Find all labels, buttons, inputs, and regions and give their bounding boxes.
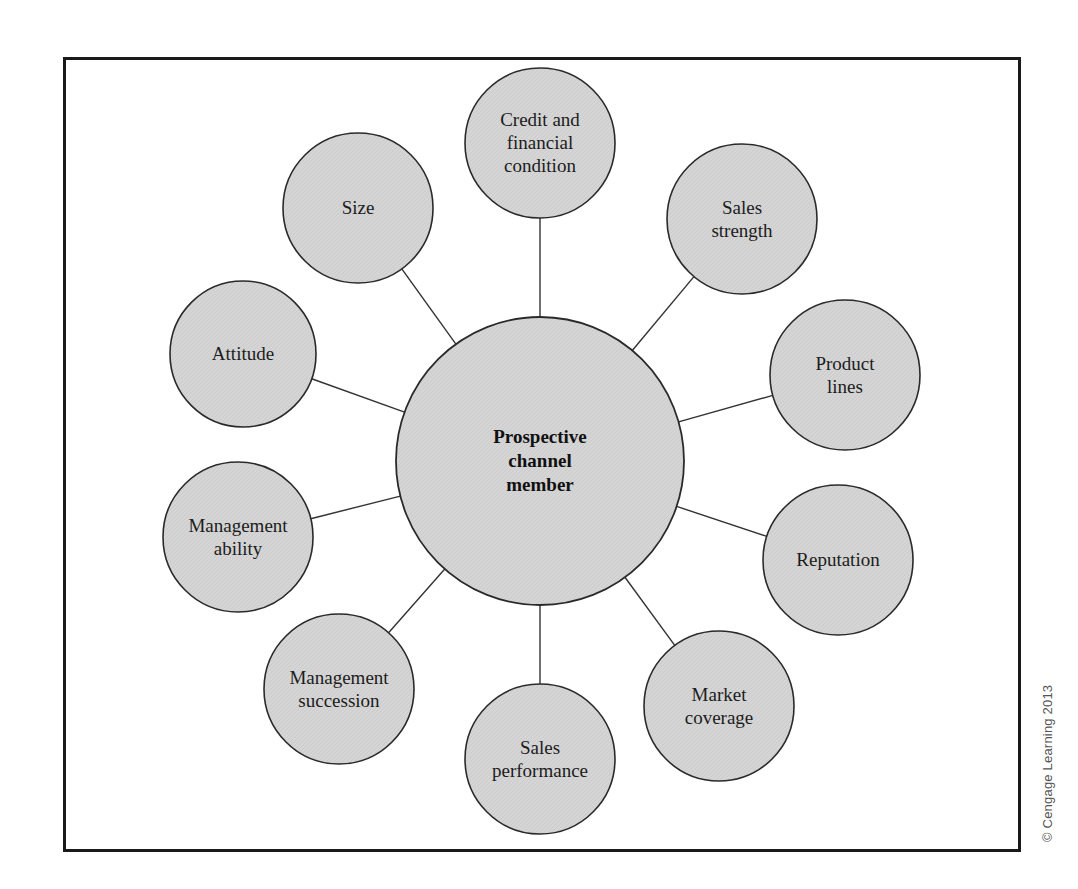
node-label-line: Sales xyxy=(722,197,762,218)
node-label-line: financial xyxy=(507,132,573,153)
node-label-line: strength xyxy=(711,220,773,241)
node-sales-performance: Salesperformance xyxy=(465,684,615,834)
connector-market-coverage xyxy=(625,577,675,645)
node-label-line: Reputation xyxy=(796,549,880,570)
mind-map-diagram: Credit andfinancialconditionSalesstrengt… xyxy=(0,0,1078,889)
node-attitude: Attitude xyxy=(170,281,316,427)
node-credit: Credit andfinancialcondition xyxy=(465,68,615,218)
node-label-line: Credit and xyxy=(500,109,580,130)
connector-reputation xyxy=(677,506,767,536)
node-management-succession: Managementsuccession xyxy=(264,614,414,764)
node-sales-strength: Salesstrength xyxy=(667,144,817,294)
node-label-line: Sales xyxy=(520,737,560,758)
copyright-notice: © Cengage Learning 2013 xyxy=(1040,685,1055,842)
node-label-line: condition xyxy=(504,155,576,176)
node-label-line: ability xyxy=(214,538,263,559)
connector-product-lines xyxy=(679,395,773,422)
node-size: Size xyxy=(283,133,433,283)
node-product-lines: Productlines xyxy=(770,300,920,450)
connector-sales-strength xyxy=(632,277,694,351)
node-label-line: member xyxy=(506,474,574,495)
node-management-ability: Managementability xyxy=(163,462,313,612)
node-label-line: performance xyxy=(492,760,588,781)
connector-management-ability xyxy=(311,496,401,519)
node-label-line: Management xyxy=(289,667,389,688)
node-reputation: Reputation xyxy=(763,485,913,635)
node-label-line: Size xyxy=(342,197,375,218)
node-market-coverage: Marketcoverage xyxy=(644,631,794,781)
connector-attitude xyxy=(312,379,405,412)
connector-size xyxy=(402,269,456,344)
node-label-line: Attitude xyxy=(212,343,274,364)
node-label-line: Management xyxy=(188,515,288,536)
hub-node: Prospectivechannelmember xyxy=(396,317,684,605)
node-label-line: Market xyxy=(692,684,748,705)
node-label-line: succession xyxy=(298,690,380,711)
node-label-line: Product xyxy=(815,353,875,374)
connector-management-succession xyxy=(389,569,445,633)
node-label-line: coverage xyxy=(685,707,754,728)
node-label-line: Prospective xyxy=(493,426,587,447)
node-label-line: lines xyxy=(827,376,863,397)
node-label-line: channel xyxy=(508,450,571,471)
